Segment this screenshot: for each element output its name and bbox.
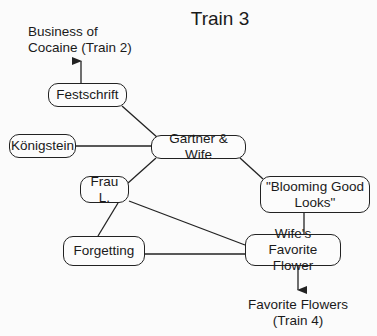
node-festschrift: Festschrift xyxy=(48,83,127,107)
node-frau-l: Frau L. xyxy=(80,176,129,203)
node-wifes-favorite-flower: Wife's Favorite Flower xyxy=(245,234,341,266)
node-konigstein: Königstein xyxy=(9,134,76,158)
node-blooming-line2: Looks" xyxy=(295,195,336,211)
node-wifeflower-line1: Wife's Favorite xyxy=(250,226,336,258)
diagram-title: Train 3 xyxy=(150,8,290,30)
node-blooming-line1: "Blooming Good xyxy=(266,179,364,195)
edge-frau-forgetting xyxy=(98,203,118,236)
node-forgetting-label: Forgetting xyxy=(74,243,135,259)
external-train4-label: Favorite Flowers (Train 4) xyxy=(248,297,348,329)
train2-line2: Cocaine (Train 2) xyxy=(28,40,148,56)
node-festschrift-label: Festschrift xyxy=(56,87,118,103)
node-blooming-good-looks: "Blooming Good Looks" xyxy=(260,176,370,213)
node-frau-label: Frau L. xyxy=(85,174,124,206)
edge-festschrift-gartner xyxy=(122,106,158,138)
node-wifeflower-line2: Flower xyxy=(273,258,314,274)
node-gartner-label: Gartner & Wife xyxy=(156,131,241,163)
train2-line1: Business of xyxy=(28,24,148,40)
edge-gartner-frau xyxy=(128,158,156,183)
external-train2-label: Business of Cocaine (Train 2) xyxy=(28,24,148,56)
edge-gartner-blooming xyxy=(240,158,263,179)
edge-frau-wifeflower xyxy=(129,201,245,245)
node-gartner-wife: Gartner & Wife xyxy=(151,135,246,159)
train4-line1: Favorite Flowers xyxy=(248,297,348,313)
train4-line2: (Train 4) xyxy=(248,313,348,329)
node-konigstein-label: Königstein xyxy=(11,138,74,154)
node-forgetting: Forgetting xyxy=(63,236,145,266)
